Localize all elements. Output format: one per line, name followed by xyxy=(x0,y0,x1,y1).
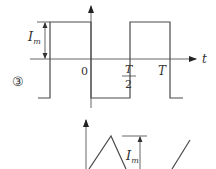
origin-label: 0 xyxy=(81,65,88,78)
waveform-diagram: Im t 0 T 2 T ③ Im xyxy=(0,0,216,169)
figure-number-label: ③ xyxy=(12,74,24,89)
half-period-numerator: T xyxy=(125,63,134,76)
time-axis-label: t xyxy=(202,52,207,66)
triangle-wave-rising-segment xyxy=(172,140,190,169)
amplitude-label: Im xyxy=(27,29,41,46)
half-period-denominator: 2 xyxy=(125,78,132,91)
square-wave-plot xyxy=(30,6,196,108)
bottom-amplitude-label: Im xyxy=(125,148,139,165)
triangle-wave-trace xyxy=(89,136,126,169)
period-label: T xyxy=(158,64,167,78)
square-wave-trace xyxy=(38,22,183,98)
